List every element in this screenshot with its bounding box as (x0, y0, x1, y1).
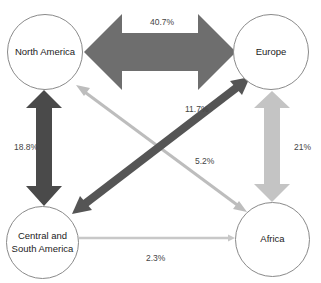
label-na-africa: 5.2% (195, 156, 214, 166)
node-north-america-label: North America (15, 46, 75, 59)
node-central-south-america-label: Central and South America (12, 230, 74, 256)
arrow-csa-africa (79, 235, 235, 242)
flow-diagram: North America Europe Central and South A… (0, 0, 321, 283)
label-na-europe: 40.7% (150, 17, 174, 27)
node-central-south-america: Central and South America (6, 206, 79, 279)
label-csa-europe: 11.7% (185, 104, 208, 114)
node-north-america: North America (7, 14, 83, 90)
label-europe-africa: 21% (294, 142, 311, 152)
node-europe-label: Europe (256, 46, 287, 59)
node-europe: Europe (233, 14, 309, 90)
arrow-europe-africa (254, 91, 290, 202)
node-africa: Africa (235, 202, 310, 277)
label-na-csa: 18.8% (14, 142, 38, 152)
node-africa-label: Africa (260, 233, 284, 246)
label-csa-africa: 2.3% (146, 253, 165, 263)
